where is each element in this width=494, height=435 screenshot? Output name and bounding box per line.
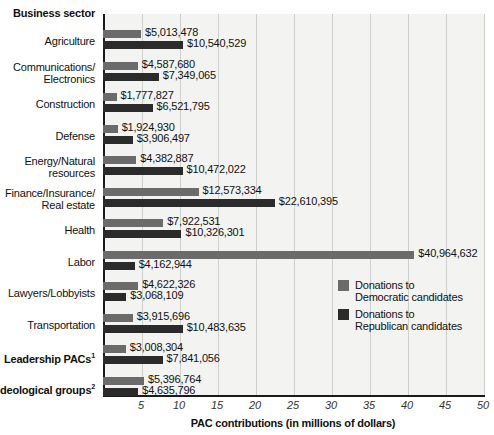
bar-democratic: [103, 93, 117, 101]
bar-democratic: [103, 156, 136, 164]
x-tick-label: 5: [138, 399, 144, 411]
bar-republican: [103, 388, 138, 396]
bar-democratic: [103, 345, 126, 353]
bar-value-republican: $6,521,795: [157, 101, 210, 112]
row-label: Lawyers/Lobbyists: [0, 287, 95, 299]
chart-legend: Donations toDemocratic candidatesDonatio…: [338, 279, 463, 337]
x-tick-label: 45: [439, 399, 451, 411]
bar-democratic: [103, 219, 163, 227]
bar-value-republican: $22,610,395: [279, 196, 338, 207]
bar-value-democratic: $1,924,930: [122, 122, 175, 133]
bar-republican: [103, 167, 183, 175]
bar-value-republican: $3,068,109: [130, 290, 183, 301]
x-tick-label: 30: [325, 399, 337, 411]
row-label-line1: Labor: [68, 256, 95, 268]
bar-value-democratic: $12,573,334: [203, 185, 262, 196]
legend-swatch-rep: [338, 309, 349, 320]
row-label: Labor: [0, 256, 95, 268]
gridline-40: [408, 14, 409, 395]
bar-republican: [103, 230, 181, 238]
row-label-line2: resources: [49, 167, 96, 179]
category-axis-header: Business sector: [13, 7, 95, 19]
row-label-line1: Lawyers/Lobbyists: [8, 287, 95, 299]
row-label: Energy/Naturalresources: [0, 155, 95, 179]
bar-value-republican: $3,906,497: [137, 133, 190, 144]
bar-value-republican: $10,483,635: [187, 322, 246, 333]
footnote-marker: 1: [91, 352, 95, 359]
bar-value-republican: $7,841,056: [167, 353, 220, 364]
x-tick-label: 35: [363, 399, 375, 411]
legend-label-line2: Republican candidates: [355, 320, 463, 332]
bar-democratic: [103, 125, 118, 133]
x-tick-label: 10: [173, 399, 185, 411]
bar-value-republican: $10,540,529: [187, 38, 246, 49]
x-tick-label: 50: [477, 399, 489, 411]
bar-democratic: [103, 377, 144, 385]
bar-value-republican: $10,472,022: [187, 164, 246, 175]
footnote-marker: 2: [91, 384, 95, 391]
row-label-line1: Transportation: [27, 319, 95, 331]
bar-value-democratic: $4,587,680: [142, 59, 195, 70]
row-label-line1: Agriculture: [45, 35, 95, 47]
bar-republican: [103, 356, 163, 364]
legend-label-line1: Donations to: [355, 279, 463, 291]
row-label: Agriculture: [0, 35, 95, 47]
bar-value-republican: $4,162,944: [139, 259, 192, 270]
row-label: Construction: [0, 98, 95, 110]
legend-item-rep[interactable]: Donations toRepublican candidates: [338, 308, 463, 332]
x-tick-label: 25: [287, 399, 299, 411]
row-label-line2: Real estate: [42, 199, 95, 211]
row-label-line1: Ideological groups2: [0, 384, 95, 396]
x-tick-label: 40: [401, 399, 413, 411]
row-label-line1: Health: [64, 224, 95, 236]
legend-label-line1: Donations to: [355, 308, 463, 320]
bar-value-democratic: $5,396,764: [148, 374, 201, 385]
gridline-50: [484, 14, 485, 395]
row-label-line1: Defense: [55, 130, 95, 142]
row-label-line1: Leadership PACs1: [4, 353, 95, 365]
bar-republican: [103, 262, 135, 270]
legend-label-line2: Democratic candidates: [355, 291, 463, 303]
bar-value-republican: $4,635,796: [142, 385, 195, 396]
row-label: Transportation: [0, 319, 95, 331]
bar-republican: [103, 136, 133, 144]
bar-republican: [103, 199, 275, 207]
bar-republican: [103, 104, 153, 112]
bar-value-republican: $7,349,065: [163, 70, 216, 81]
row-label: Finance/Insurance/Real estate: [0, 187, 95, 211]
row-label: Health: [0, 224, 95, 236]
x-tick-label: 15: [211, 399, 223, 411]
bar-value-democratic: $3,915,696: [137, 311, 190, 322]
bar-democratic: [103, 314, 133, 322]
gridline-35: [370, 14, 371, 395]
legend-swatch-dem: [338, 280, 349, 291]
pac-contributions-chart: Business sector Agriculture$5,013,478$10…: [0, 0, 494, 435]
x-tick-label: 20: [249, 399, 261, 411]
row-label: Ideological groups2: [0, 382, 95, 397]
bar-democratic: [103, 30, 141, 38]
bar-democratic: [103, 62, 138, 70]
bar-republican: [103, 41, 183, 49]
bar-value-democratic: $4,382,887: [140, 153, 193, 164]
row-label-line1: Energy/Natural: [24, 155, 95, 167]
legend-item-dem[interactable]: Donations toDemocratic candidates: [338, 279, 463, 303]
row-label: Defense: [0, 130, 95, 142]
row-label-line1: Finance/Insurance/: [5, 187, 95, 199]
bar-republican: [103, 293, 126, 301]
x-axis-title: PAC contributions (in millions of dollar…: [103, 417, 483, 429]
bar-value-republican: $10,326,301: [185, 227, 244, 238]
bar-republican: [103, 73, 159, 81]
gridline-45: [446, 14, 447, 395]
row-label: Communications/Electronics: [0, 61, 95, 85]
row-label-line1: Construction: [36, 98, 95, 110]
row-label: Leadership PACs1: [0, 350, 95, 365]
bar-democratic: [103, 188, 199, 196]
row-label-line1: Communications/: [13, 61, 95, 73]
row-label-line2: Electronics: [43, 73, 95, 85]
bar-value-democratic: $40,964,632: [418, 248, 477, 259]
bar-republican: [103, 325, 183, 333]
